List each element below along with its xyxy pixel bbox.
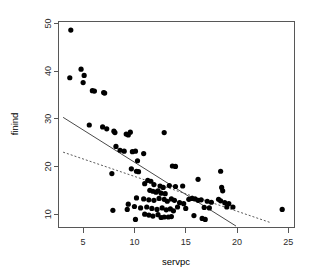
- data-points: [67, 27, 285, 222]
- data-point: [180, 183, 185, 188]
- data-point: [162, 130, 167, 135]
- data-point: [230, 204, 235, 209]
- y-axis-title: finind: [9, 113, 20, 136]
- data-point: [102, 90, 107, 95]
- data-point: [195, 177, 200, 182]
- y-tick-label: 20: [44, 161, 54, 171]
- plot-frame: [59, 22, 295, 228]
- plot-canvas: 510152025 1020304050 servpc finind: [0, 0, 316, 280]
- data-point: [141, 151, 146, 156]
- y-tick-label: 10: [44, 209, 54, 219]
- x-tick-label: 10: [129, 237, 139, 247]
- data-point: [181, 201, 186, 206]
- data-point: [109, 171, 114, 176]
- data-point: [136, 169, 141, 174]
- data-point: [207, 205, 212, 210]
- data-point: [68, 27, 73, 32]
- data-point: [220, 188, 225, 193]
- y-tick-label: 50: [44, 18, 54, 28]
- data-point: [113, 144, 118, 149]
- data-point: [151, 198, 156, 203]
- x-tick-label: 20: [232, 237, 242, 247]
- x-axis: 510152025: [81, 228, 294, 247]
- data-point: [126, 202, 131, 207]
- data-point: [132, 204, 137, 209]
- data-point: [167, 183, 172, 188]
- data-point: [67, 75, 72, 80]
- data-point: [280, 207, 285, 212]
- data-point: [112, 130, 117, 135]
- data-point: [122, 149, 127, 154]
- data-point: [128, 130, 133, 135]
- data-point: [199, 197, 204, 202]
- data-point: [129, 166, 134, 171]
- y-tick-label: 40: [44, 66, 54, 76]
- data-point: [151, 182, 156, 187]
- data-point: [183, 206, 188, 211]
- data-point: [78, 67, 83, 72]
- data-point: [202, 205, 207, 210]
- data-point: [161, 185, 166, 190]
- data-point: [172, 198, 177, 203]
- data-point: [150, 213, 155, 218]
- data-point: [133, 217, 138, 222]
- data-point: [149, 206, 154, 211]
- data-point: [142, 181, 147, 186]
- data-point: [125, 207, 130, 212]
- data-point: [134, 195, 139, 200]
- x-tick-label: 5: [81, 237, 86, 247]
- data-point: [135, 158, 140, 163]
- data-point: [92, 89, 97, 94]
- data-point: [163, 191, 168, 196]
- data-point: [81, 80, 86, 85]
- data-point: [173, 184, 178, 189]
- data-point: [209, 200, 214, 205]
- data-point: [154, 207, 159, 212]
- data-point: [218, 169, 223, 174]
- data-point: [144, 204, 149, 209]
- data-point: [171, 208, 176, 213]
- x-tick-label: 25: [283, 237, 293, 247]
- data-point: [224, 204, 229, 209]
- scatter-plot-figure: 510152025 1020304050 servpc finind: [0, 0, 316, 280]
- data-point: [203, 217, 208, 222]
- data-point: [110, 208, 115, 213]
- data-point: [191, 213, 196, 218]
- data-point: [156, 196, 161, 201]
- y-axis: 1020304050: [44, 18, 59, 219]
- data-point: [146, 197, 151, 202]
- data-point: [82, 73, 87, 78]
- x-axis-title: servpc: [162, 256, 190, 267]
- data-point: [87, 122, 92, 127]
- y-tick-label: 30: [44, 114, 54, 124]
- data-point: [133, 149, 138, 154]
- data-point: [169, 214, 174, 219]
- data-point: [173, 164, 178, 169]
- x-tick-label: 15: [181, 237, 191, 247]
- data-point: [104, 126, 109, 131]
- data-point: [138, 205, 143, 210]
- data-point: [141, 196, 146, 201]
